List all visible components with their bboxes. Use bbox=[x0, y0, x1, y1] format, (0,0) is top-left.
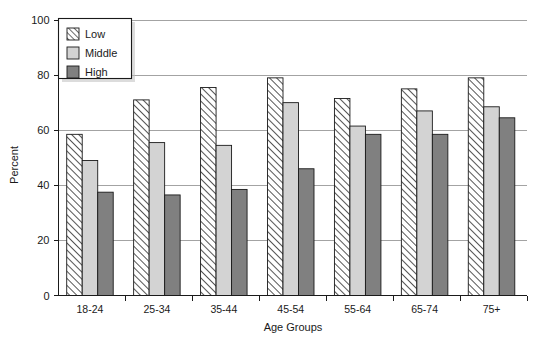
y-tick-label: 80 bbox=[37, 69, 49, 81]
bar-high-65-74 bbox=[432, 134, 448, 295]
bar-high-55-64 bbox=[365, 134, 381, 295]
bar-low-25-34 bbox=[134, 100, 150, 296]
y-tick-label: 20 bbox=[37, 234, 49, 246]
bar-high-25-34 bbox=[165, 195, 181, 296]
legend: LowMiddleHigh bbox=[59, 19, 136, 83]
x-axis-title: Age Groups bbox=[264, 321, 323, 333]
bar-chart: 020406080100 18-2425-3435-4445-5455-6465… bbox=[0, 0, 548, 348]
bar-middle-18-24 bbox=[82, 161, 98, 296]
bar-high-45-54 bbox=[299, 169, 315, 296]
x-category-label: 18-24 bbox=[77, 303, 104, 315]
y-tick-label: 60 bbox=[37, 124, 49, 136]
bar-middle-75+ bbox=[484, 107, 500, 296]
legend-swatch-middle bbox=[67, 47, 79, 59]
x-category-label: 55-64 bbox=[344, 303, 371, 315]
bar-low-65-74 bbox=[401, 89, 417, 296]
legend-label-high: High bbox=[85, 66, 108, 78]
bar-high-75+ bbox=[499, 118, 515, 296]
x-category-label: 45-54 bbox=[277, 303, 304, 315]
y-tick-label: 0 bbox=[43, 290, 49, 302]
bar-low-45-54 bbox=[268, 78, 284, 296]
legend-swatch-high bbox=[67, 66, 79, 78]
bar-middle-65-74 bbox=[417, 111, 433, 296]
legend-swatch-low bbox=[67, 28, 79, 40]
y-tick-label: 40 bbox=[37, 179, 49, 191]
y-axis-title: Percent bbox=[8, 146, 20, 184]
bar-low-55-64 bbox=[334, 99, 350, 296]
bar-middle-35-44 bbox=[216, 145, 232, 295]
bar-low-75+ bbox=[468, 78, 484, 296]
bar-middle-55-64 bbox=[350, 126, 366, 295]
x-category-label: 35-44 bbox=[210, 303, 237, 315]
bar-low-18-24 bbox=[67, 134, 83, 295]
bar-high-18-24 bbox=[98, 192, 114, 295]
bar-middle-25-34 bbox=[149, 143, 165, 296]
x-category-label: 25-34 bbox=[143, 303, 170, 315]
legend-label-middle: Middle bbox=[85, 47, 117, 59]
y-tick-label: 100 bbox=[31, 14, 49, 26]
x-category-label: 65-74 bbox=[411, 303, 438, 315]
x-category-label: 75+ bbox=[483, 303, 501, 315]
chart-canvas: 020406080100 18-2425-3435-4445-5455-6465… bbox=[0, 0, 548, 348]
bar-high-35-44 bbox=[232, 189, 248, 295]
bar-middle-45-54 bbox=[283, 103, 299, 296]
legend-label-low: Low bbox=[85, 28, 105, 40]
bar-low-35-44 bbox=[201, 87, 217, 295]
